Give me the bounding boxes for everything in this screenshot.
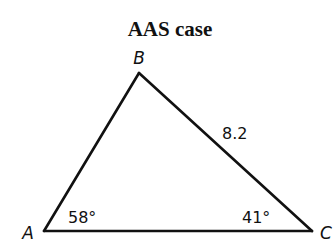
side-bc-length: 8.2 bbox=[222, 124, 247, 143]
vertex-label-b: B bbox=[133, 48, 145, 68]
side-bc bbox=[139, 73, 312, 231]
angle-c-measure: 41° bbox=[242, 208, 270, 227]
vertex-label-c: C bbox=[320, 223, 332, 243]
vertex-label-a: A bbox=[21, 223, 34, 243]
angle-a-measure: 58° bbox=[68, 208, 96, 227]
diagram-title: AAS case bbox=[128, 17, 213, 41]
aas-triangle-diagram: AAS case B A C 58° 41° 8.2 bbox=[0, 0, 334, 250]
